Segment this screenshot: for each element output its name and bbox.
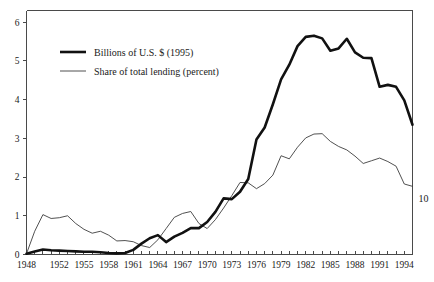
chart-figure: 0123456 19481952195519581961196419671970…	[0, 0, 434, 282]
x-tick-label: 1994	[395, 260, 414, 270]
chart-canvas: 0123456 19481952195519581961196419671970…	[0, 0, 434, 282]
x-tick-label: 1964	[148, 260, 167, 270]
axes-group	[27, 11, 413, 255]
y-tick-group: 0123456	[15, 18, 27, 260]
x-tick-label: 1970	[198, 260, 217, 270]
y-tick-label: 5	[15, 56, 20, 66]
x-tick-label: 1985	[321, 260, 340, 270]
x-tick-label: 1955	[74, 260, 93, 270]
x-tick-label: 1979	[272, 260, 291, 270]
x-tick-label: 1961	[124, 260, 143, 270]
x-tick-label: 1982	[296, 260, 315, 270]
legend-label-2: Share of total lending (percent)	[94, 66, 219, 78]
x-tick-label: 1948	[17, 260, 36, 270]
y-tick-label: 0	[15, 250, 20, 260]
series-line-share	[27, 134, 413, 254]
chart-legend: Billions of U.S. $ (1995)Share of total …	[60, 47, 219, 78]
series-group	[27, 36, 413, 254]
y-tick-label: 6	[15, 18, 20, 28]
x-tick-label: 1967	[173, 260, 192, 270]
x-tick-label: 1991	[370, 260, 389, 270]
right-axis-note: 10	[419, 193, 429, 204]
x-tick-label: 1988	[346, 260, 365, 270]
x-tick-label: 1958	[99, 260, 118, 270]
x-tick-label: 1952	[50, 260, 69, 270]
y-tick-label: 3	[15, 134, 20, 144]
y-tick-label: 2	[15, 172, 20, 182]
series-line-billions	[27, 36, 413, 254]
x-tick-group: 1948195219551958196119641967197019731976…	[17, 260, 414, 270]
y-tick-label: 1	[15, 211, 20, 221]
x-tick-label: 1973	[222, 260, 241, 270]
x-tick-label: 1976	[247, 260, 266, 270]
legend-label-1: Billions of U.S. $ (1995)	[94, 47, 193, 59]
y-tick-label: 4	[15, 95, 20, 105]
